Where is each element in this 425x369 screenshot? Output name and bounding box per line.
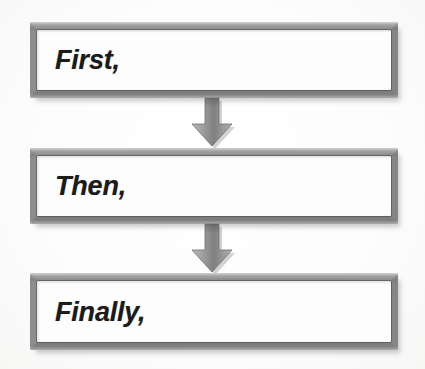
flow-step-label-1: First, <box>55 47 120 74</box>
down-arrow-icon-1 <box>188 97 238 149</box>
flow-step-box-3[interactable]: Finally, <box>30 273 398 350</box>
flowchart-canvas: First, Th <box>0 0 425 369</box>
flow-step-box-2[interactable]: Then, <box>30 148 398 224</box>
flow-step-box-1[interactable]: First, <box>30 22 398 98</box>
down-arrow-icon-2 <box>188 223 238 275</box>
flow-step-label-2: Then, <box>55 173 126 200</box>
flow-step-label-3: Finally, <box>55 298 145 325</box>
